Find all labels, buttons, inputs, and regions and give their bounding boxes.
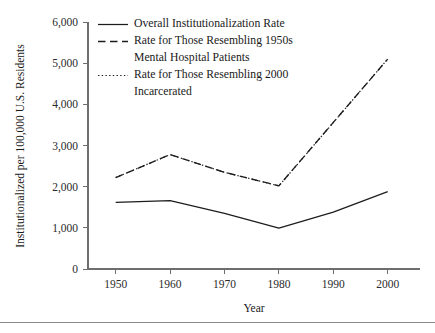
y-tick-label-6000: 6,000 [52, 16, 78, 29]
legend-entry-1950s-patients: Rate for Those Resembling 1950s Mental H… [98, 34, 293, 64]
x-axis-title: Year [243, 302, 264, 314]
series-overall-institutionalization-rate [116, 192, 388, 229]
y-tick-label-5000: 5,000 [52, 57, 78, 70]
y-tick-label-1000: 1,000 [52, 222, 78, 235]
y-tick-label-3000: 3,000 [52, 140, 78, 153]
legend-entry-2000-incarcerated: Rate for Those Resembling 2000 Incarcera… [98, 68, 288, 98]
legend-label-overall: Overall Institutionalization Rate [134, 17, 285, 30]
x-tick-label-1950: 1950 [104, 278, 127, 290]
x-tick-label-1990: 1990 [322, 278, 345, 290]
x-tick-label-1980: 1980 [267, 278, 290, 290]
legend-label-2000-incarcerated-line2: Incarcerated [134, 85, 192, 98]
x-tick-label-1960: 1960 [159, 278, 182, 290]
legend-label-2000-incarcerated: Rate for Those Resembling 2000 [134, 68, 288, 81]
x-axis-ticks: 1950 1960 1970 1980 1990 2000 [104, 269, 399, 290]
x-tick-label-1970: 1970 [213, 278, 236, 290]
legend-entry-overall: Overall Institutionalization Rate [98, 17, 285, 30]
x-tick-label-2000: 2000 [376, 278, 399, 290]
legend-label-1950s-patients-line2: Mental Hospital Patients [134, 51, 250, 64]
y-tick-label-2000: 2,000 [52, 181, 78, 194]
legend-label-1950s-patients: Rate for Those Resembling 1950s [134, 34, 293, 47]
y-tick-label-0: 0 [72, 263, 78, 275]
chart-figure: 0 1,000 2,000 3,000 4,000 5,000 6,000 19… [0, 0, 435, 333]
chart-legend: Overall Institutionalization Rate Rate f… [98, 17, 293, 98]
y-axis-ticks: 0 1,000 2,000 3,000 4,000 5,000 6,000 [52, 16, 88, 275]
y-axis-title: Institutionalized per 100,000 U.S. Resid… [14, 44, 27, 248]
y-tick-label-4000: 4,000 [52, 98, 78, 111]
line-chart: 0 1,000 2,000 3,000 4,000 5,000 6,000 19… [0, 0, 435, 333]
